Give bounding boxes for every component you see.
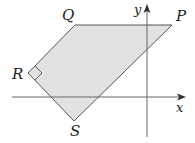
vertex-label-p: P xyxy=(175,7,187,25)
x-axis-label: x xyxy=(176,100,184,115)
vertex-label-r: R xyxy=(11,65,23,83)
y-axis-label: y xyxy=(133,2,142,17)
vertex-label-q: Q xyxy=(62,6,74,24)
vertex-label-s: S xyxy=(70,122,80,140)
quadrilateral-pqrs xyxy=(28,25,172,121)
coordinate-diagram: x y P Q R S xyxy=(0,0,195,143)
